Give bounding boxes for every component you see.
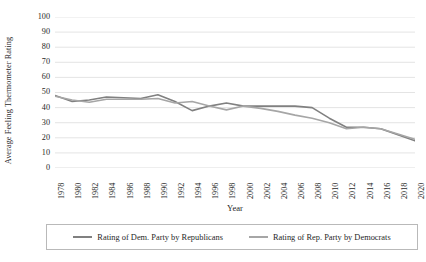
series-line [55,95,415,141]
legend-entry-label: Rating of Rep. Party by Democrats [273,233,391,242]
y-axis-title-label: Average Feeling Thermometer Rating [5,36,14,163]
x-axis-tick-label: 1982 [92,183,100,199]
legend-entry[interactable]: Rating of Dem. Party by Republicans [73,233,223,242]
y-axis-title: Average Feeling Thermometer Rating [0,0,18,200]
x-axis-tick-label: 1990 [161,183,169,199]
x-axis-tick-label: 2004 [281,183,289,199]
x-axis-title: Year [55,203,415,213]
x-axis-tick-label: 2010 [332,183,340,199]
y-axis-tick-label: 60 [28,73,50,81]
y-axis-tick-label: 10 [28,149,50,157]
y-axis-tick-label: 70 [28,58,50,66]
x-axis-tick-label: 2008 [315,183,323,199]
x-axis-tick-label: 1980 [75,183,83,199]
legend-line-rep-icon [249,236,268,238]
series-lines [55,95,415,141]
x-axis-tick-label: 1992 [178,183,186,199]
gridlines [55,17,415,168]
x-axis-tick-label: 1996 [212,183,220,199]
x-axis-tick-labels: 1978198019821984198619881990199219941996… [55,169,415,201]
series-line [55,96,415,139]
x-axis-tick-label: 2016 [384,183,392,199]
y-axis-tick-label: 0 [28,164,50,172]
y-axis-tick-labels: 1009080706050403020100 [24,17,50,168]
x-axis-tick-label: 2000 [247,183,255,199]
y-axis-tick-label: 20 [28,134,50,142]
x-axis-tick-label: 1988 [144,183,152,199]
legend-entry[interactable]: Rating of Rep. Party by Democrats [249,233,391,242]
x-axis-tick-label: 1994 [195,183,203,199]
y-axis-tick-label: 40 [28,104,50,112]
x-axis-tick-label: 2012 [349,183,357,199]
x-axis-tick-label: 1986 [127,183,135,199]
plot-svg [55,17,415,168]
x-axis-tick-label: 2018 [401,183,409,199]
x-axis-tick-label: 2014 [367,183,375,199]
x-axis-tick-label: 1984 [109,183,117,199]
x-axis-tick-label: 2006 [298,183,306,199]
x-axis-tick-label: 2020 [418,183,426,199]
x-axis-tick-label: 2002 [264,183,272,199]
y-axis-tick-label: 100 [28,13,50,21]
legend-entry-label: Rating of Dem. Party by Republicans [97,233,223,242]
chart-legend: Rating of Dem. Party by RepublicansRatin… [46,224,418,250]
y-axis-tick-label: 30 [28,119,50,127]
y-axis-tick-label: 50 [28,88,50,96]
x-axis-tick-label: 1978 [58,183,66,199]
y-axis-tick-label: 90 [28,28,50,36]
plot-area [55,17,415,168]
y-axis-tick-label: 80 [28,43,50,51]
x-axis-tick-label: 1998 [229,183,237,199]
legend-line-dem-icon [73,236,92,238]
